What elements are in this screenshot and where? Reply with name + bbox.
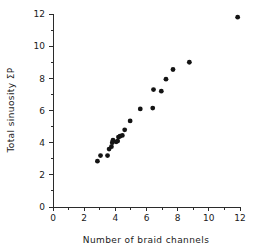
y-axis: 024681012 xyxy=(34,9,53,212)
y-tick-label: 2 xyxy=(39,170,45,180)
y-tick-label: 8 xyxy=(39,74,45,84)
data-point xyxy=(98,153,103,158)
data-point xyxy=(109,144,114,149)
y-tick-label: 6 xyxy=(39,106,45,116)
x-axis: 024681012 xyxy=(50,207,246,223)
data-point xyxy=(159,89,164,94)
data-points-layer xyxy=(95,15,240,164)
data-point xyxy=(150,106,155,111)
data-point xyxy=(95,159,100,164)
x-tick-label: 8 xyxy=(175,213,181,223)
y-tick-label: 10 xyxy=(34,41,46,51)
x-tick-label: 2 xyxy=(81,213,87,223)
x-tick-label: 12 xyxy=(234,213,245,223)
data-point xyxy=(105,153,110,158)
y-tick-label: 0 xyxy=(39,202,45,212)
y-tick-label: 12 xyxy=(34,9,45,19)
plot-canvas: 024681012 024681012 Number of braid chan… xyxy=(0,0,256,252)
data-point xyxy=(120,133,125,138)
data-point xyxy=(171,67,176,72)
x-tick-label: 10 xyxy=(203,213,215,223)
scatter-plot-figure: 024681012 024681012 Number of braid chan… xyxy=(0,0,256,252)
x-axis-title: Number of braid channels xyxy=(83,235,209,245)
data-point xyxy=(115,139,120,144)
data-point xyxy=(122,127,127,132)
data-point xyxy=(138,106,143,111)
x-tick-label: 6 xyxy=(144,213,150,223)
data-point xyxy=(128,119,133,124)
data-point xyxy=(151,87,156,92)
x-tick-label: 0 xyxy=(50,213,56,223)
data-point xyxy=(187,60,192,65)
y-tick-label: 4 xyxy=(39,138,45,148)
data-point xyxy=(235,15,240,20)
y-axis-title: Total sinuosity ΣP xyxy=(6,67,16,153)
x-tick-label: 4 xyxy=(112,213,118,223)
data-point xyxy=(164,77,169,82)
